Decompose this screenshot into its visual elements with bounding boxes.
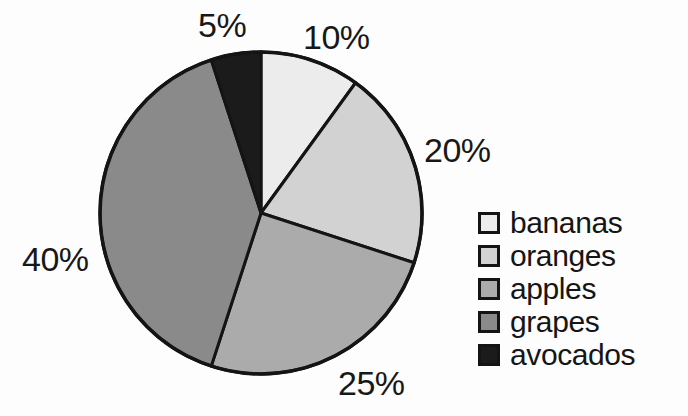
slice-value-label-avocados: 5% [198, 8, 246, 42]
legend-swatch-avocados [478, 344, 500, 366]
legend-swatch-apples [478, 278, 500, 300]
pie-chart-figure: 5% 10% 20% 25% 40% bananasorangesapplesg… [0, 0, 688, 416]
legend-label-avocados: avocados [510, 340, 635, 370]
legend-label-grapes: grapes [510, 307, 599, 337]
legend-label-oranges: oranges [510, 241, 616, 271]
legend-label-apples: apples [510, 274, 596, 304]
legend-swatch-oranges [478, 245, 500, 267]
legend-swatch-bananas [478, 212, 500, 234]
legend-label-bananas: bananas [510, 208, 622, 238]
slice-value-label-oranges: 20% [424, 133, 491, 167]
slice-value-label-apples: 25% [338, 366, 405, 400]
legend-item-grapes[interactable]: grapes [478, 305, 635, 338]
chart-legend: bananasorangesapplesgrapesavocados [478, 206, 635, 371]
legend-item-bananas[interactable]: bananas [478, 206, 635, 239]
slice-value-label-bananas: 10% [303, 20, 370, 54]
slice-value-label-grapes: 40% [22, 242, 89, 276]
legend-item-avocados[interactable]: avocados [478, 338, 635, 371]
legend-item-oranges[interactable]: oranges [478, 239, 635, 272]
pie-slice-group [100, 52, 422, 374]
legend-item-apples[interactable]: apples [478, 272, 635, 305]
legend-swatch-grapes [478, 311, 500, 333]
